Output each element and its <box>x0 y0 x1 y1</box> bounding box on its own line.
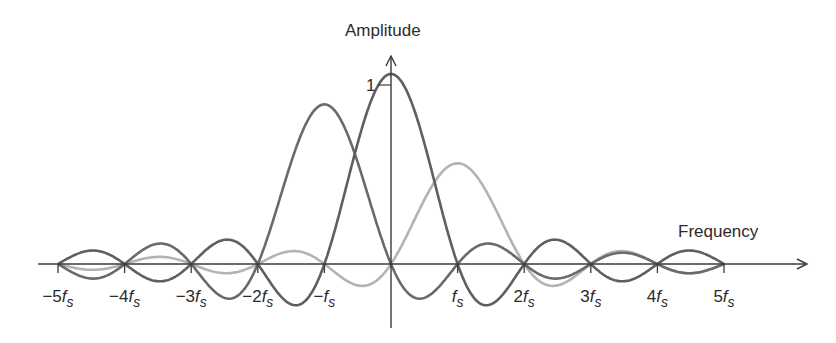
sinc-spectrum-diagram: 1 Amplitude Frequency −5fs−4fs−3fs−2fs−f… <box>0 0 836 343</box>
x-axis-label: Frequency <box>678 222 759 241</box>
y-unit-tick-label: 1 <box>366 76 375 95</box>
y-axis-label: Amplitude <box>345 21 421 40</box>
x-tick-label: −4fs <box>109 287 140 310</box>
x-tick-label: −5fs <box>42 287 73 310</box>
x-tick-label: 4fs <box>647 287 668 310</box>
x-tick-label: −fs <box>314 287 336 310</box>
x-tick-label: 5fs <box>713 287 734 310</box>
x-axis-ticks: −5fs−4fs−3fs−2fs−fsfs2fs3fs4fs5fs <box>42 264 734 310</box>
x-tick-label: fs <box>452 287 464 310</box>
x-tick-label: −3fs <box>176 287 207 310</box>
x-tick-label: 2fs <box>514 287 535 310</box>
x-tick-label: −2fs <box>242 287 273 310</box>
x-tick-label: 3fs <box>580 287 601 310</box>
